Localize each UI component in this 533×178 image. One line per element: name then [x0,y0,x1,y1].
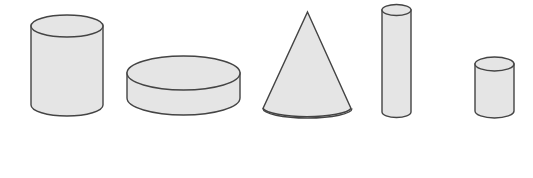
shape-cylinder-rod [382,5,411,118]
shape-cylinder-disc [127,56,240,115]
cylinder-body [382,10,411,118]
shapes-diagram [0,0,533,135]
shape-cylinder-tall [31,15,103,116]
cone-body [263,12,351,117]
shape-cone [263,12,352,118]
shapes-illustration-row [0,0,533,135]
worksheet-page: 4 of these shapes are . The odd one out … [0,0,533,178]
cylinder-top-ellipse [127,56,240,90]
question-line: 4 of these shapes are . The odd one out … [0,140,533,178]
cylinder-top-ellipse [475,57,514,71]
cylinder-body [31,26,103,116]
cylinder-body [475,64,514,118]
cylinder-top-ellipse [31,15,103,37]
cylinder-top-ellipse [382,5,411,16]
shape-cylinder-small [475,57,514,118]
